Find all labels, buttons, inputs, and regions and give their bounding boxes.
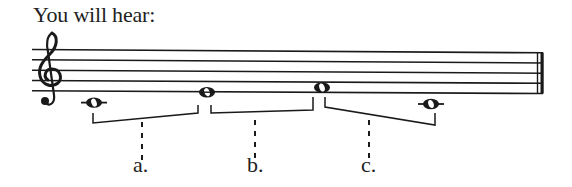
interval-label-c: c. [361, 152, 376, 178]
treble-clef-icon [39, 33, 60, 105]
note-1-c4 [81, 97, 107, 107]
thick-barline [541, 53, 544, 94]
staff-line-2 [32, 60, 543, 63]
treble-clef-dot [41, 97, 49, 105]
note-3-f4 [314, 82, 330, 92]
staff-line-3 [32, 70, 543, 73]
interval-bracket-c [325, 97, 435, 125]
staff-lines [32, 50, 543, 94]
staff-line-4 [32, 81, 543, 84]
interval-label-a: a. [133, 152, 148, 178]
note-4-c4 [418, 99, 444, 109]
interval-bracket-b [211, 97, 313, 113]
note-2-e4 [199, 87, 215, 97]
interval-bracket-a [93, 105, 198, 123]
staff-line-1 [32, 50, 543, 53]
staff-line-5 [32, 91, 543, 94]
interval-label-b: b. [247, 152, 264, 178]
music-staff [0, 0, 572, 187]
